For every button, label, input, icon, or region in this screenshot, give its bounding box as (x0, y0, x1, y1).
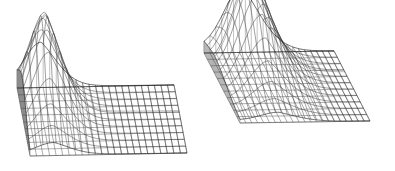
surface-mesh-line-u (17, 42, 174, 85)
surface-mesh-line-u (18, 30, 175, 93)
surface-mesh-line-u (240, 112, 370, 121)
surface-mesh-line-v (334, 51, 370, 121)
surface-mesh-line-u (30, 143, 187, 154)
surface-mesh-line-v (316, 51, 352, 121)
floor-back-edge (240, 121, 370, 123)
surface-mesh-line-v (328, 51, 364, 121)
surface-mesh-line-v (89, 84, 102, 153)
surface-crest-ridge (22, 14, 179, 111)
surface-mesh-line-v (115, 86, 128, 154)
surface-mesh-line-v (109, 86, 122, 154)
surface-mesh-line-v (245, 0, 281, 113)
surface-mesh-line-v (56, 51, 69, 147)
wireframe-surface-left (0, 0, 197, 171)
chart-panel-left (0, 0, 197, 171)
surface-mesh-line-u (27, 104, 184, 140)
surface-mesh-line-v (122, 86, 135, 154)
surface-mesh-line-u (22, 16, 179, 113)
surface-mesh-line-v (322, 51, 358, 121)
surface-crest-ridge (215, 0, 345, 72)
floor-grid-line-v (216, 53, 252, 123)
floor-grid-line-v (310, 51, 346, 121)
floor-grid-line-v (234, 53, 270, 123)
surface-mesh-line-v (210, 35, 246, 118)
figure-container (0, 0, 395, 171)
surface-mesh-line-u (29, 125, 186, 146)
chart-panel-right (198, 0, 395, 171)
surface-mesh-line-v (102, 85, 115, 153)
wireframe-surface-right (198, 0, 395, 171)
